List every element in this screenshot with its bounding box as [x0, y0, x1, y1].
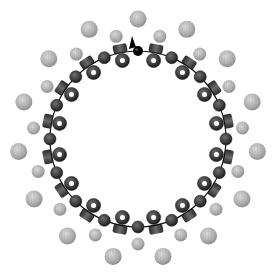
- dark-sphere: [70, 71, 82, 83]
- dark-sphere: [213, 167, 225, 179]
- dark-sphere: [194, 71, 206, 83]
- d-bead: [198, 88, 212, 102]
- light-sphere-inner: [32, 165, 45, 178]
- light-sphere-outer: [244, 93, 261, 110]
- marker-sphere: [133, 46, 143, 56]
- light-sphere-outer: [81, 21, 98, 38]
- d-bead: [147, 54, 161, 68]
- inner-light-spheres: [27, 30, 249, 251]
- light-sphere-inner: [53, 203, 66, 216]
- diagram-canvas: [0, 0, 278, 280]
- light-sphere-inner: [193, 48, 206, 61]
- light-sphere-inner: [174, 228, 187, 241]
- dark-sphere: [51, 99, 63, 111]
- d-bead: [53, 148, 67, 162]
- dark-sphere: [194, 195, 206, 207]
- light-sphere-outer: [219, 50, 236, 67]
- light-sphere-outer: [233, 191, 250, 208]
- ring-diagram: [0, 0, 278, 280]
- light-sphere-inner: [132, 238, 145, 251]
- light-sphere-outer: [15, 93, 32, 110]
- light-sphere-outer: [59, 228, 76, 245]
- d-bead: [175, 199, 189, 213]
- light-sphere-inner: [153, 30, 166, 43]
- ring-units: [44, 52, 232, 233]
- dark-sphere: [132, 221, 144, 233]
- pointer-marker: [129, 36, 143, 56]
- light-sphere-outer: [26, 191, 43, 208]
- dark-sphere: [166, 214, 178, 226]
- d-bead: [115, 210, 129, 224]
- light-sphere-inner: [236, 122, 249, 135]
- light-sphere-outer: [178, 21, 195, 38]
- d-bead: [64, 176, 78, 190]
- light-sphere-outer: [249, 143, 266, 160]
- d-bead: [53, 116, 67, 130]
- d-bead: [64, 88, 78, 102]
- light-sphere-inner: [231, 165, 244, 178]
- light-sphere-inner: [70, 48, 83, 61]
- arrow-pointer-icon: [129, 36, 136, 49]
- d-bead: [175, 65, 189, 79]
- dark-sphere: [98, 214, 110, 226]
- d-bead: [87, 65, 101, 79]
- dark-sphere: [166, 52, 178, 64]
- dark-sphere: [98, 52, 110, 64]
- light-sphere-inner: [222, 80, 235, 93]
- light-sphere-outer: [40, 50, 57, 67]
- light-sphere-inner: [210, 203, 223, 216]
- light-sphere-outer: [200, 228, 217, 245]
- light-sphere-inner: [110, 30, 123, 43]
- dark-sphere: [213, 99, 225, 111]
- d-bead: [115, 54, 129, 68]
- d-bead: [209, 148, 223, 162]
- d-bead: [147, 210, 161, 224]
- light-sphere-outer: [105, 248, 122, 265]
- d-bead-stems: [42, 43, 234, 235]
- dark-sphere: [70, 195, 82, 207]
- dark-sphere: [220, 133, 232, 145]
- dark-sphere: [44, 133, 56, 145]
- dark-sphere: [51, 167, 63, 179]
- light-sphere-outer: [154, 248, 171, 265]
- d-bead: [87, 199, 101, 213]
- light-sphere-outer: [130, 11, 147, 28]
- d-bead: [198, 176, 212, 190]
- light-sphere-outer: [10, 143, 27, 160]
- d-bead: [209, 116, 223, 130]
- light-sphere-inner: [89, 228, 102, 241]
- light-sphere-inner: [41, 80, 54, 93]
- light-sphere-inner: [27, 122, 40, 135]
